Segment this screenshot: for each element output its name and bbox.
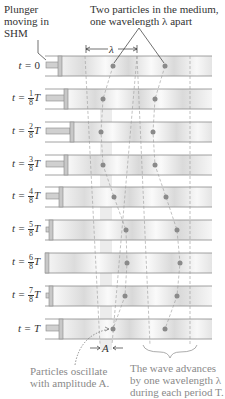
time-label-7: t = 78T (0, 287, 40, 304)
wavelength-brace (143, 345, 197, 358)
tube-rows (45, 56, 212, 339)
time-label-0: t = 0 (0, 59, 40, 71)
advance-note: The wave advances by one wavelength λ du… (130, 362, 224, 398)
particles-label: Two particles in the medium, one wavelen… (90, 3, 218, 27)
time-label-6: t = 68T (0, 254, 40, 271)
amplitude-symbol: A (102, 342, 109, 354)
wavelength-symbol: λ (109, 43, 114, 55)
time-label-5: t = 58T (0, 221, 40, 238)
time-label-2: t = 28T (0, 123, 40, 140)
time-label-3: t = 38T (0, 156, 40, 173)
plunger-label: Plunger moving in SHM (4, 3, 49, 39)
oscillate-note: Particles oscillate with amplitude A. (30, 365, 109, 389)
time-label-8: t = T (0, 322, 40, 334)
plunger-pointer (38, 40, 46, 60)
time-label-4: t = 48T (0, 188, 40, 205)
time-label-1: t = 18T (0, 90, 40, 107)
